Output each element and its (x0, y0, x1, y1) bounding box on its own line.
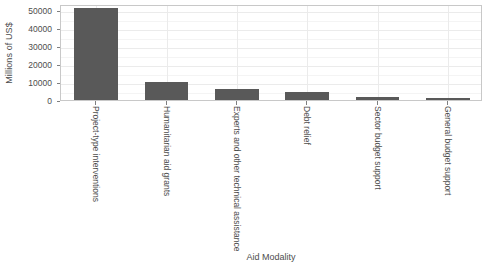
x-axis-tick-label-text: Project-type interventions (91, 106, 100, 202)
x-axis-tick-label-text: Humanitarian aid grants (161, 106, 170, 196)
x-axis-tick-label-text: General budget support (442, 106, 451, 195)
gridline-horizontal (61, 66, 481, 67)
plot-panel (60, 5, 482, 101)
gridline-vertical (307, 6, 308, 100)
bar-chart: Millions of US$ 010000200003000040000500… (0, 0, 492, 274)
x-axis-tick-mark (236, 101, 237, 105)
gridline-horizontal (61, 84, 481, 85)
bar (285, 92, 329, 100)
y-axis-tick-label: 0 (18, 97, 52, 106)
y-axis-tick-label: 40000 (18, 25, 52, 34)
x-axis-title-label: Aid Modality (246, 252, 295, 262)
x-axis-tick-mark (95, 101, 96, 105)
x-axis-tick-mark (306, 101, 307, 105)
gridline-horizontal-minor (61, 57, 481, 58)
x-axis-title: Aid Modality (60, 252, 482, 262)
y-axis-title: Millions of US$ (0, 0, 18, 105)
gridline-vertical (378, 6, 379, 100)
gridline-horizontal-minor (61, 75, 481, 76)
bar (215, 89, 259, 100)
x-axis-tick-labels: Project-type interventionsHumanitarian a… (60, 106, 482, 246)
x-axis-tick-label-text: Debt relief (302, 106, 311, 145)
y-axis-tick-labels: 01000020000300004000050000 (18, 5, 52, 101)
gridline-horizontal (61, 30, 481, 31)
y-axis-title-label: Millions of US$ (4, 22, 14, 84)
bar (426, 98, 470, 101)
y-axis-tick-label: 20000 (18, 61, 52, 70)
gridline-horizontal-minor (61, 39, 481, 40)
gridline-horizontal (61, 48, 481, 49)
bar (74, 8, 118, 100)
gridline-vertical (448, 6, 449, 100)
gridline-horizontal (61, 12, 481, 13)
gridline-vertical (237, 6, 238, 100)
x-axis-tick-mark (166, 101, 167, 105)
y-axis-tick-label: 50000 (18, 7, 52, 16)
y-axis-tick-label: 30000 (18, 43, 52, 52)
bar (145, 82, 189, 100)
x-axis-tick-label-text: Sector budget support (372, 106, 381, 190)
y-axis-tick-label: 10000 (18, 79, 52, 88)
x-axis-tick-mark (377, 101, 378, 105)
gridline-horizontal-minor (61, 21, 481, 22)
x-axis-tick-label-text: Experts and other technical assistance (231, 106, 240, 252)
gridline-horizontal-minor (61, 93, 481, 94)
x-axis-tick-mark (447, 101, 448, 105)
bar (356, 97, 400, 100)
